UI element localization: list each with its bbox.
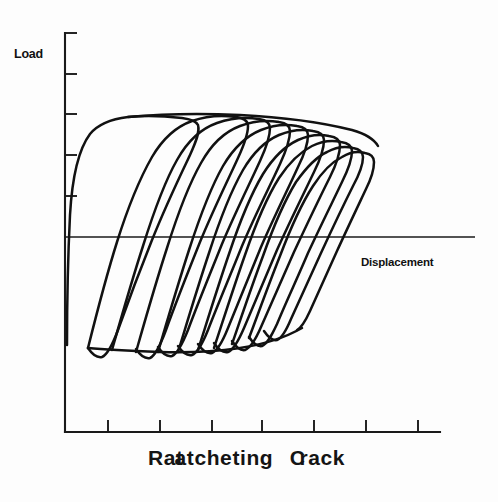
y-axis-label: Load [14, 47, 43, 61]
x-axis-label: Displacement [361, 256, 433, 268]
figure-root: Load Displacement Ratatcheting Crack [0, 0, 498, 502]
axes-group [65, 33, 475, 432]
figure-caption: Ratatcheting Crack [0, 446, 498, 470]
x-axis-ticks [108, 420, 418, 432]
hysteresis-loops [67, 114, 378, 358]
hysteresis-lower-envelope [88, 328, 302, 352]
caption-part-b: atcheting [175, 446, 274, 469]
caption-part-d: rack [299, 446, 345, 469]
hysteresis-plot [0, 0, 498, 502]
